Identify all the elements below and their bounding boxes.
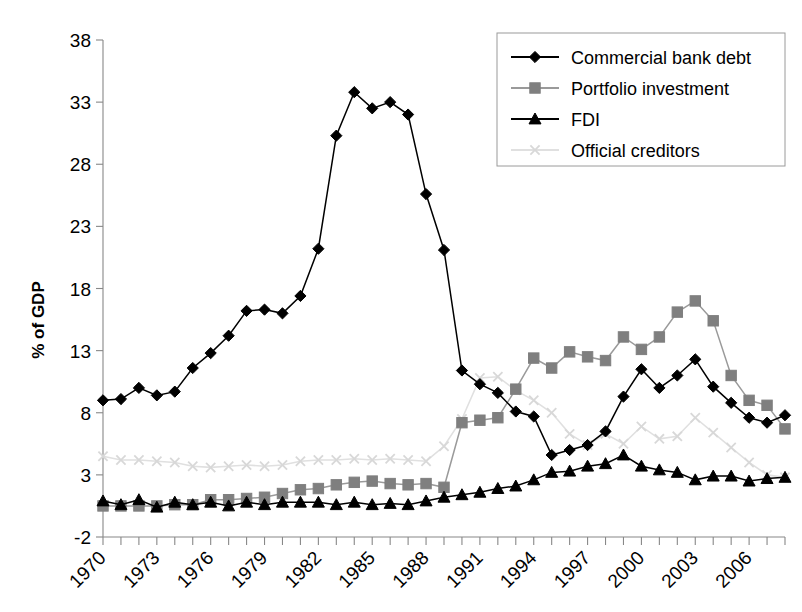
legend-label: Official creditors [571, 141, 700, 161]
data-marker-diamond [385, 97, 396, 108]
data-marker-x [529, 396, 538, 405]
data-marker-square [457, 417, 467, 427]
chart-container: -238131823283338% of GDP1970197319761979… [0, 0, 802, 612]
data-marker-diamond [259, 304, 270, 315]
x-axis-labels: 1970197319761979198219851988199119941997… [65, 547, 756, 592]
data-marker-diamond [438, 244, 449, 255]
y-tick-label: 8 [80, 403, 91, 424]
x-tick-label: 1997 [550, 547, 595, 592]
data-marker-x [547, 408, 556, 417]
data-marker-triangle [600, 458, 612, 469]
data-marker-square [385, 478, 395, 488]
data-marker-square [367, 476, 377, 486]
data-marker-square [762, 400, 772, 410]
data-marker-square [564, 347, 574, 357]
data-marker-square [726, 370, 736, 380]
x-tick-label: 1991 [442, 547, 487, 592]
x-tick-label: 1979 [227, 547, 272, 592]
data-marker-square [295, 485, 305, 495]
data-marker-x [691, 413, 700, 422]
legend-label: FDI [571, 110, 600, 130]
data-marker-square [493, 413, 503, 423]
data-marker-square [618, 332, 628, 342]
x-tick-label: 2000 [604, 547, 649, 592]
data-marker-diamond [151, 390, 162, 401]
legend-label: Portfolio investment [571, 79, 729, 99]
x-tick-label: 1976 [173, 547, 218, 592]
data-marker-diamond [618, 391, 629, 402]
data-marker-square [780, 424, 790, 434]
line-chart: -238131823283338% of GDP1970197319761979… [0, 0, 802, 612]
y-tick-label: 3 [80, 465, 91, 486]
data-marker-triangle [635, 460, 647, 471]
data-marker-diamond [420, 188, 431, 199]
x-tick-label: 2003 [657, 547, 702, 592]
x-tick-label: 1973 [119, 547, 164, 592]
series-line [103, 377, 785, 478]
data-marker-x [439, 442, 448, 451]
x-tick-label: 1982 [280, 547, 325, 592]
data-marker-square [475, 415, 485, 425]
data-marker-square [708, 316, 718, 326]
y-tick-label: 13 [70, 341, 91, 362]
y-tick-label: 23 [70, 216, 91, 237]
x-tick-label: 1994 [496, 547, 541, 592]
legend-label: Commercial bank debt [571, 48, 751, 68]
data-marker-diamond [564, 444, 575, 455]
data-marker-diamond [331, 130, 342, 141]
data-marker-square [313, 483, 323, 493]
y-tick-label: 28 [70, 154, 91, 175]
data-marker-triangle [384, 497, 396, 508]
y-tick-label: -2 [74, 527, 91, 548]
x-tick-label: 1985 [334, 547, 379, 592]
data-marker-square [582, 352, 592, 362]
data-marker-x [727, 443, 736, 452]
data-marker-diamond [241, 305, 252, 316]
y-tick-label: 38 [70, 30, 91, 51]
data-marker-square [511, 384, 521, 394]
data-marker-diamond [528, 411, 539, 422]
x-tick-label: 1988 [388, 547, 433, 592]
data-marker-diamond [779, 410, 790, 421]
data-marker-diamond [133, 382, 144, 393]
legend: Commercial bank debtPortfolio investment… [497, 33, 785, 166]
y-tick-label: 18 [70, 279, 91, 300]
data-marker-square [529, 353, 539, 363]
data-marker-triangle [528, 474, 540, 485]
data-marker-triangle [510, 480, 522, 491]
series-official-creditors [98, 372, 789, 482]
x-tick-label: 2006 [711, 547, 756, 592]
data-marker-triangle [617, 449, 629, 460]
data-marker-diamond [97, 395, 108, 406]
data-marker-diamond [546, 449, 557, 460]
data-marker-square [421, 478, 431, 488]
data-marker-diamond [313, 243, 324, 254]
x-tick-label: 1970 [65, 547, 110, 592]
series-portfolio-investment [98, 296, 790, 511]
data-marker-x [637, 422, 646, 431]
data-marker-square [672, 307, 682, 317]
data-marker-triangle [348, 496, 360, 507]
data-marker-x [619, 439, 628, 448]
data-marker-x [745, 458, 754, 467]
data-marker-square [403, 480, 413, 490]
data-marker-square [546, 363, 556, 373]
data-marker-square [744, 395, 754, 405]
y-axis-title: % of GDP [29, 281, 48, 358]
data-marker-x [565, 429, 574, 438]
data-marker-triangle [133, 494, 145, 505]
data-marker-square [654, 332, 664, 342]
y-tick-label: 33 [70, 92, 91, 113]
data-marker-x [709, 428, 718, 437]
data-marker-diamond [115, 393, 126, 404]
data-marker-square [690, 296, 700, 306]
data-marker-diamond [403, 109, 414, 120]
x-axis-ticks [103, 537, 785, 545]
data-marker-square [600, 355, 610, 365]
data-marker-square [331, 480, 341, 490]
data-marker-square [636, 344, 646, 354]
data-marker-square [349, 477, 359, 487]
y-axis-ticks: -238131823283338 [70, 30, 103, 548]
data-marker-square [530, 83, 540, 93]
data-marker-diamond [761, 417, 772, 428]
